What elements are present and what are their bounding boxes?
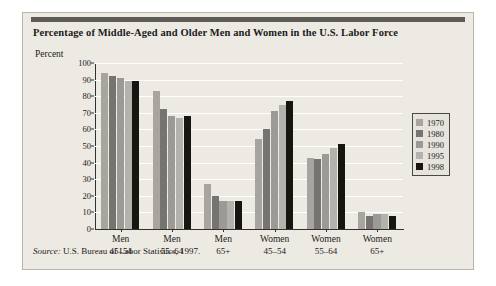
- gridline: [95, 146, 403, 147]
- y-axis-tick-mark: [91, 63, 94, 64]
- y-axis-label: Percent: [35, 49, 64, 59]
- bar[interactable]: [227, 201, 234, 229]
- legend-item[interactable]: 1970: [416, 117, 444, 128]
- y-axis-tick-label: 0: [69, 224, 91, 234]
- legend-label: 1998: [427, 162, 444, 172]
- legend-label: 1990: [427, 140, 444, 150]
- bar[interactable]: [160, 109, 167, 229]
- legend-item[interactable]: 1990: [416, 139, 444, 150]
- bar[interactable]: [101, 73, 108, 229]
- bar[interactable]: [255, 139, 262, 229]
- bar[interactable]: [373, 214, 380, 229]
- bar[interactable]: [366, 216, 373, 229]
- gridline: [95, 163, 403, 164]
- y-axis-tick-mark: [91, 179, 94, 180]
- bar[interactable]: [184, 116, 191, 229]
- x-axis-category-label: Men65+: [198, 234, 249, 257]
- bar[interactable]: [263, 129, 270, 229]
- legend-label: 1970: [427, 118, 444, 128]
- legend-swatch-icon: [416, 152, 423, 159]
- bar[interactable]: [176, 118, 183, 229]
- gridline: [95, 113, 403, 114]
- bar[interactable]: [389, 216, 396, 229]
- bar[interactable]: [338, 144, 345, 229]
- gridline: [95, 196, 403, 197]
- x-axis-tick-mark: [172, 229, 173, 232]
- bar[interactable]: [330, 148, 337, 229]
- legend[interactable]: 19701980199019951998: [412, 113, 450, 176]
- bar-group: [153, 63, 192, 229]
- bar[interactable]: [109, 76, 116, 229]
- gridline: [95, 129, 403, 130]
- gridline: [95, 179, 403, 180]
- bar[interactable]: [168, 116, 175, 229]
- category-label-line1: Men: [198, 234, 249, 246]
- legend-swatch-icon: [416, 141, 423, 148]
- y-axis-tick-mark: [91, 79, 94, 80]
- bar[interactable]: [322, 154, 329, 229]
- bar[interactable]: [286, 101, 293, 229]
- y-axis-tick-label: 20: [69, 191, 91, 201]
- gridline: [95, 63, 403, 64]
- bar[interactable]: [279, 105, 286, 230]
- x-axis-tick-mark: [223, 229, 224, 232]
- legend-label: 1995: [427, 151, 444, 161]
- bar[interactable]: [358, 212, 365, 229]
- category-label-line2: 45–54: [249, 246, 300, 258]
- bar[interactable]: [204, 184, 211, 229]
- bar[interactable]: [314, 159, 321, 229]
- y-axis-tick-label: 100: [69, 58, 91, 68]
- y-axis-tick-mark: [91, 195, 94, 196]
- category-label-line2: 65+: [352, 246, 403, 258]
- x-axis-category-label: Men45–54: [95, 234, 146, 257]
- x-axis-tick-mark: [326, 229, 327, 232]
- bar[interactable]: [307, 158, 314, 229]
- bar[interactable]: [219, 201, 226, 229]
- bar[interactable]: [153, 91, 160, 229]
- bar-group: [307, 63, 346, 229]
- category-label-line2: 65+: [198, 246, 249, 258]
- bar[interactable]: [235, 201, 242, 229]
- y-axis-tick-mark: [91, 96, 94, 97]
- bar-group: [101, 63, 140, 229]
- gridline: [95, 212, 403, 213]
- y-axis-tick-label: 60: [69, 124, 91, 134]
- bar[interactable]: [117, 78, 124, 229]
- y-axis-tick-mark: [91, 229, 94, 230]
- y-axis-tick-label: 70: [69, 108, 91, 118]
- category-label-line1: Women: [249, 234, 300, 246]
- y-axis-tick-label: 40: [69, 158, 91, 168]
- category-label-line1: Men: [146, 234, 197, 246]
- category-label-line2: 45–54: [95, 246, 146, 258]
- page-title: Percentage of Middle-Aged and Older Men …: [33, 27, 463, 38]
- bar[interactable]: [132, 81, 139, 229]
- bar[interactable]: [212, 196, 219, 229]
- legend-item[interactable]: 1980: [416, 128, 444, 139]
- header-rule: [31, 17, 465, 22]
- chart-figure: Percentage of Middle-Aged and Older Men …: [22, 12, 474, 270]
- bar-group: [255, 63, 294, 229]
- y-axis-tick-label: 90: [69, 75, 91, 85]
- legend-item[interactable]: 1998: [416, 161, 444, 172]
- legend-label: 1980: [427, 129, 444, 139]
- y-axis-tick-label: 30: [69, 174, 91, 184]
- x-axis-tick-mark: [275, 229, 276, 232]
- category-label-line2: 55–64: [146, 246, 197, 258]
- category-label-line1: Men: [95, 234, 146, 246]
- plot-area: [95, 63, 403, 229]
- legend-item[interactable]: 1995: [416, 150, 444, 161]
- y-axis-tick-mark: [91, 162, 94, 163]
- x-axis-category-label: Men55–64: [146, 234, 197, 257]
- x-axis-category-label: Women55–64: [300, 234, 351, 257]
- y-axis-tick-mark: [91, 146, 94, 147]
- bar[interactable]: [381, 214, 388, 229]
- bar[interactable]: [271, 111, 278, 229]
- x-axis-category-label: Women65+: [352, 234, 403, 257]
- bar-group: [204, 63, 243, 229]
- legend-swatch-icon: [416, 130, 423, 137]
- category-label-line1: Women: [352, 234, 403, 246]
- bar[interactable]: [125, 81, 132, 229]
- y-axis-tick-labels: 0102030405060708090100: [67, 63, 91, 230]
- gridline: [95, 96, 403, 97]
- x-axis-line: [95, 229, 404, 230]
